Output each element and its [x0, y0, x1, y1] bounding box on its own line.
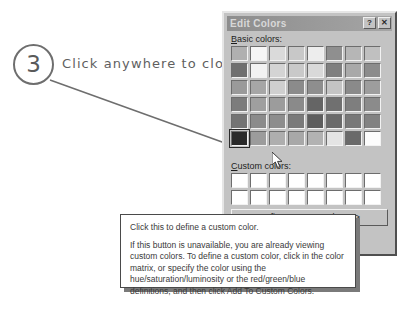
custom-color-swatch-2[interactable]: [269, 173, 286, 188]
custom-color-swatch-12[interactable]: [307, 190, 324, 205]
custom-color-swatch-6[interactable]: [345, 173, 362, 188]
basic-color-swatch-28[interactable]: [307, 97, 324, 112]
basic-color-swatch-2[interactable]: [269, 46, 286, 61]
basic-color-swatch-6[interactable]: [345, 46, 362, 61]
basic-color-swatch-0[interactable]: [231, 46, 248, 61]
custom-color-swatch-14[interactable]: [345, 190, 362, 205]
basic-color-swatch-25[interactable]: [250, 97, 267, 112]
basic-color-swatch-17[interactable]: [250, 80, 267, 95]
custom-color-swatch-5[interactable]: [326, 173, 343, 188]
basic-color-swatch-9[interactable]: [250, 63, 267, 78]
dialog-titlebar[interactable]: Edit Colors ? ✕: [227, 16, 392, 31]
dialog-title: Edit Colors: [230, 18, 287, 29]
tooltip-line-1: Click this to define a custom color.: [130, 222, 346, 234]
basic-color-swatch-16[interactable]: [231, 80, 248, 95]
callout-instruction-text: Click anywhere to close: [62, 56, 241, 71]
basic-color-swatch-36[interactable]: [307, 114, 324, 129]
help-icon[interactable]: ?: [363, 17, 376, 29]
basic-color-swatch-12[interactable]: [307, 63, 324, 78]
basic-color-swatch-45[interactable]: [326, 131, 343, 146]
basic-color-swatch-21[interactable]: [326, 80, 343, 95]
close-icon[interactable]: ✕: [378, 17, 391, 29]
basic-colors-label: Basic colors:: [231, 34, 282, 44]
basic-color-swatch-33[interactable]: [250, 114, 267, 129]
basic-color-swatch-47[interactable]: [364, 131, 381, 146]
custom-color-swatch-1[interactable]: [250, 173, 267, 188]
basic-color-swatch-3[interactable]: [288, 46, 305, 61]
basic-color-swatch-40[interactable]: [231, 131, 248, 146]
custom-color-swatch-4[interactable]: [307, 173, 324, 188]
basic-color-swatch-20[interactable]: [307, 80, 324, 95]
basic-color-swatch-31[interactable]: [364, 97, 381, 112]
basic-color-swatch-35[interactable]: [288, 114, 305, 129]
custom-color-swatch-8[interactable]: [231, 190, 248, 205]
tooltip-line-2: If this button is unavailable, you are a…: [130, 240, 346, 298]
callout-step-circle: 3: [13, 44, 54, 85]
custom-colors-grid[interactable]: [231, 173, 381, 205]
basic-color-swatch-24[interactable]: [231, 97, 248, 112]
basic-color-swatch-19[interactable]: [288, 80, 305, 95]
basic-color-swatch-7[interactable]: [364, 46, 381, 61]
basic-color-swatch-10[interactable]: [269, 63, 286, 78]
custom-color-swatch-13[interactable]: [326, 190, 343, 205]
basic-color-swatch-29[interactable]: [326, 97, 343, 112]
basic-color-swatch-27[interactable]: [288, 97, 305, 112]
basic-color-swatch-30[interactable]: [345, 97, 362, 112]
basic-color-swatch-39[interactable]: [364, 114, 381, 129]
basic-color-swatch-34[interactable]: [269, 114, 286, 129]
callout-step-number: 3: [26, 53, 41, 76]
basic-color-swatch-32[interactable]: [231, 114, 248, 129]
custom-color-swatch-9[interactable]: [250, 190, 267, 205]
basic-color-swatch-41[interactable]: [250, 131, 267, 146]
custom-color-swatch-15[interactable]: [364, 190, 381, 205]
mouse-cursor-icon: [272, 152, 284, 169]
basic-color-swatch-11[interactable]: [288, 63, 305, 78]
basic-color-swatch-46[interactable]: [345, 131, 362, 146]
basic-color-swatch-13[interactable]: [326, 63, 343, 78]
basic-color-swatch-18[interactable]: [269, 80, 286, 95]
custom-color-swatch-7[interactable]: [364, 173, 381, 188]
basic-color-swatch-26[interactable]: [269, 97, 286, 112]
basic-color-swatch-42[interactable]: [269, 131, 286, 146]
basic-colors-grid[interactable]: [231, 46, 381, 146]
tooltip-popup: Click this to define a custom color. If …: [120, 214, 356, 288]
basic-color-swatch-15[interactable]: [364, 63, 381, 78]
custom-color-swatch-3[interactable]: [288, 173, 305, 188]
basic-color-swatch-22[interactable]: [345, 80, 362, 95]
custom-color-swatch-0[interactable]: [231, 173, 248, 188]
basic-color-swatch-37[interactable]: [326, 114, 343, 129]
basic-color-swatch-8[interactable]: [231, 63, 248, 78]
basic-color-swatch-1[interactable]: [250, 46, 267, 61]
custom-color-swatch-10[interactable]: [269, 190, 286, 205]
basic-colors-label-text: asic colors:: [237, 34, 282, 44]
basic-color-swatch-4[interactable]: [307, 46, 324, 61]
basic-color-swatch-23[interactable]: [364, 80, 381, 95]
basic-color-swatch-38[interactable]: [345, 114, 362, 129]
basic-color-swatch-14[interactable]: [345, 63, 362, 78]
basic-color-swatch-43[interactable]: [288, 131, 305, 146]
basic-color-swatch-5[interactable]: [326, 46, 343, 61]
basic-color-swatch-44[interactable]: [307, 131, 324, 146]
custom-color-swatch-11[interactable]: [288, 190, 305, 205]
screenshot-root: 3 Click anywhere to close Edit Colors ? …: [0, 0, 406, 324]
